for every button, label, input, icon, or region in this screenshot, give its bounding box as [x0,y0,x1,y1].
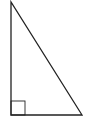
triangle-outline [11,2,82,115]
right-triangle-diagram [0,0,86,121]
right-angle-marker [11,101,25,115]
